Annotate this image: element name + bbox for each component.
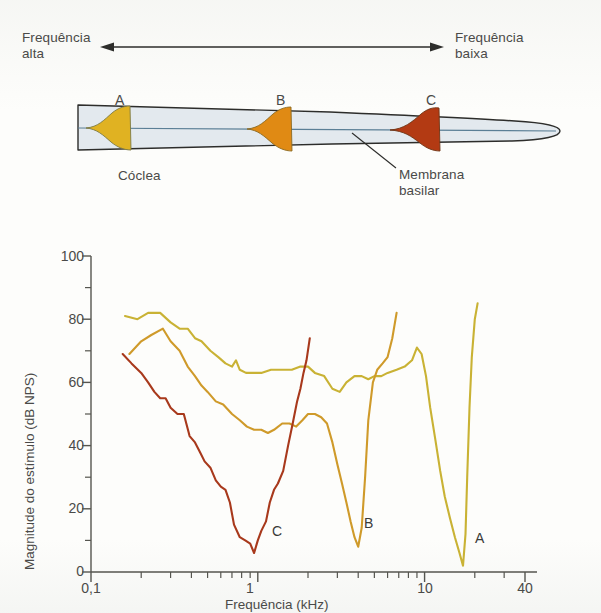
cochlea-body <box>78 105 560 150</box>
cochlea-svg <box>0 0 601 225</box>
tuning-curve-chart: Magnitude do estímulo (dB NPS) Frequênci… <box>0 240 601 613</box>
tuning-curve-a <box>125 303 478 565</box>
tuning-curve-b <box>129 313 396 547</box>
cochlea-diagram: Frequência alta Frequência baixa Cóclea … <box>0 0 601 225</box>
plot-area <box>0 240 601 613</box>
traveling-wave-envelope-c <box>390 108 440 151</box>
frequency-direction-arrow <box>100 43 444 52</box>
